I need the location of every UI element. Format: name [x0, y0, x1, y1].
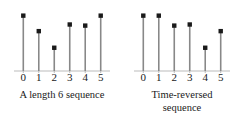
stem-marker [203, 46, 207, 50]
stem-plot-right [126, 0, 238, 80]
panel-length-6-sequence: 012345 A length 6 sequence [6, 0, 118, 121]
figure-stem-plots: 012345 A length 6 sequence 012345 Time-r… [0, 0, 242, 121]
stem-marker [52, 46, 56, 50]
caption-left-line-1: A length 6 sequence [6, 88, 118, 101]
x-tick-label: 4 [78, 71, 92, 84]
stem-marker [83, 23, 87, 27]
stem-marker [21, 13, 25, 17]
stem-plot-left-canvas [6, 0, 118, 80]
stem-marker [172, 23, 176, 27]
x-tick-label: 4 [198, 71, 212, 84]
x-tick-label: 5 [214, 71, 228, 84]
stem-marker [188, 22, 192, 26]
x-tick-label: 1 [32, 71, 46, 84]
stem-plot-left [6, 0, 118, 80]
stem-plot-right-canvas [126, 0, 238, 80]
stem-marker [99, 13, 103, 17]
panel-time-reversed-sequence: 012345 Time-reversed sequence [126, 0, 238, 121]
x-tick-label: 2 [47, 71, 61, 84]
x-axis-tick-labels-right: 012345 [126, 71, 238, 85]
caption-right: Time-reversed sequence [126, 88, 238, 114]
stem-marker [157, 13, 161, 17]
x-axis-tick-labels-left: 012345 [6, 71, 118, 85]
x-tick-label: 3 [63, 71, 77, 84]
x-tick-label: 2 [167, 71, 181, 84]
caption-right-line-1: Time-reversed [126, 88, 238, 101]
stem-marker [37, 29, 41, 33]
caption-left: A length 6 sequence [6, 88, 118, 101]
x-tick-label: 5 [94, 71, 108, 84]
stem-marker [219, 29, 223, 33]
stem-marker [68, 22, 72, 26]
x-tick-label: 0 [16, 71, 30, 84]
x-tick-label: 0 [136, 71, 150, 84]
x-tick-label: 3 [183, 71, 197, 84]
caption-right-line-2: sequence [126, 101, 238, 114]
x-tick-label: 1 [152, 71, 166, 84]
stem-marker [141, 13, 145, 17]
